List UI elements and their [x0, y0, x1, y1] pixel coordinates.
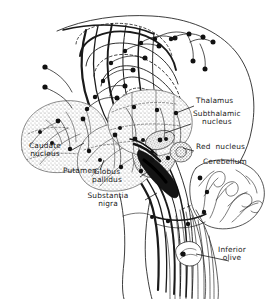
label-cerebellum: Cerebellum [203, 158, 247, 166]
label-caudate-nucleus: Caudatenucleus [14, 142, 76, 159]
red-nucleus-body [170, 142, 192, 162]
label-substantia-nigra: Substantianigra [76, 192, 140, 209]
label-globus-pallidus: Globuspallidus [79, 168, 135, 185]
label-subthalamic-nucleus: Subthalamicnucleus [193, 110, 241, 127]
label-red-nucleus: Red nucleus [196, 143, 245, 151]
label-inferior-olive: Inferiorolive [206, 246, 258, 263]
label-thalamus: Thalamus [196, 97, 233, 105]
anatomical-diagram: Thalamus Subthalamicnucleus Red nucleus … [0, 0, 280, 299]
